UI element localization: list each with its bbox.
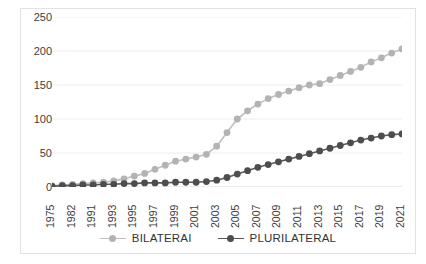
- legend-item[interactable]: PLURILATERAL: [218, 232, 337, 244]
- x-axis-tick-label: 1999: [168, 205, 180, 228]
- y-axis-labels: 050100150200250: [20, 8, 52, 196]
- data-point-marker: [203, 151, 210, 158]
- data-point-marker: [357, 64, 364, 71]
- data-point-marker: [172, 158, 179, 165]
- data-point-marker: [182, 179, 189, 186]
- data-point-marker: [234, 116, 241, 123]
- data-point-marker: [193, 154, 200, 161]
- series-layer: [52, 46, 402, 187]
- y-axis-tick-label: 100: [20, 114, 52, 125]
- plot-area: [52, 17, 402, 187]
- legend-dot: [109, 235, 116, 242]
- x-axis-tick-label: 2003: [209, 205, 221, 228]
- data-point-marker: [162, 180, 169, 187]
- y-axis-tick-label: 200: [20, 46, 52, 57]
- data-point-marker: [203, 178, 210, 185]
- x-axis-tick-label: 2007: [250, 205, 262, 228]
- data-point-marker: [327, 76, 334, 83]
- x-axis-tick-label: 2011: [291, 205, 303, 228]
- data-point-marker: [306, 150, 313, 157]
- y-axis-tick-label: 0: [20, 182, 52, 193]
- x-axis-tick-label: 2019: [373, 205, 385, 228]
- y-axis-tick-label: 50: [20, 148, 52, 159]
- x-axis-tick-label: 2005: [229, 205, 241, 228]
- legend-marker-icon: [218, 233, 244, 243]
- chart-legend: BILATERAIPLURILATERAL: [20, 228, 416, 248]
- data-point-marker: [327, 145, 334, 152]
- x-axis-tick-label: 1975: [44, 205, 56, 228]
- data-point-marker: [172, 179, 179, 186]
- data-point-marker: [316, 148, 323, 155]
- data-point-marker: [388, 50, 395, 57]
- x-axis-labels: 1975198219911993199519971999200120032005…: [52, 190, 402, 230]
- data-point-marker: [141, 180, 148, 187]
- data-point-marker: [357, 137, 364, 144]
- x-axis-tick-label: 2021: [394, 205, 406, 228]
- x-axis-tick-label: 2015: [332, 205, 344, 228]
- data-point-marker: [306, 82, 313, 89]
- data-point-marker: [275, 158, 282, 165]
- data-point-marker: [285, 156, 292, 163]
- data-point-marker: [193, 179, 200, 186]
- data-point-marker: [254, 101, 261, 108]
- x-axis-tick-label: 2001: [188, 205, 200, 228]
- legend-item[interactable]: BILATERAI: [100, 232, 192, 244]
- legend-dot: [227, 235, 234, 242]
- data-point-marker: [296, 84, 303, 91]
- line-chart: 050100150200250 197519821991199319951997…: [0, 0, 426, 264]
- data-point-marker: [152, 166, 159, 173]
- data-point-marker: [275, 91, 282, 98]
- data-point-marker: [378, 133, 385, 140]
- data-point-marker: [234, 171, 241, 178]
- data-point-marker: [162, 162, 169, 169]
- data-point-marker: [337, 142, 344, 149]
- data-point-marker: [244, 167, 251, 174]
- data-point-marker: [224, 129, 231, 136]
- data-point-marker: [254, 164, 261, 171]
- data-point-marker: [368, 58, 375, 65]
- data-point-marker: [182, 156, 189, 163]
- x-axis-tick-label: 1982: [65, 205, 77, 228]
- data-point-marker: [141, 170, 148, 177]
- gridlines: [52, 17, 402, 187]
- data-point-marker: [121, 180, 128, 187]
- data-point-marker: [378, 54, 385, 61]
- data-series: [52, 131, 402, 187]
- data-point-marker: [265, 161, 272, 168]
- data-point-marker: [347, 68, 354, 75]
- plot-svg: [52, 17, 402, 187]
- data-point-marker: [131, 180, 138, 187]
- data-point-marker: [213, 177, 220, 184]
- data-point-marker: [347, 139, 354, 146]
- data-point-marker: [213, 143, 220, 150]
- data-point-marker: [399, 131, 402, 138]
- x-axis-tick-label: 2009: [270, 205, 282, 228]
- legend-label: BILATERAI: [132, 232, 192, 244]
- data-series: [52, 46, 402, 187]
- data-point-marker: [224, 174, 231, 181]
- x-axis-tick-label: 2017: [353, 205, 365, 228]
- data-point-marker: [285, 88, 292, 95]
- legend-label: PLURILATERAL: [250, 232, 337, 244]
- legend-marker-icon: [100, 233, 126, 243]
- x-axis-tick-label: 1997: [147, 205, 159, 228]
- data-point-marker: [368, 135, 375, 142]
- x-axis-tick-label: 1993: [106, 205, 118, 228]
- y-axis-tick-label: 150: [20, 80, 52, 91]
- data-point-marker: [244, 107, 251, 114]
- x-axis-tick-label: 1991: [85, 205, 97, 228]
- data-point-marker: [152, 180, 159, 187]
- data-point-marker: [52, 183, 55, 187]
- y-axis-tick-label: 250: [20, 12, 52, 23]
- data-point-marker: [316, 80, 323, 87]
- x-axis-tick-label: 2013: [312, 205, 324, 228]
- x-axis-tick-label: 1995: [126, 205, 138, 228]
- data-point-marker: [388, 131, 395, 138]
- data-point-marker: [131, 173, 138, 180]
- data-point-marker: [337, 72, 344, 79]
- data-point-marker: [296, 153, 303, 160]
- data-point-marker: [265, 95, 272, 102]
